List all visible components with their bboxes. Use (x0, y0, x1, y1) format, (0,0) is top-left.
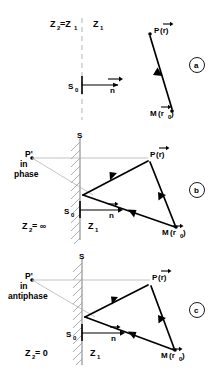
impedance-right-letter-b: Z (88, 221, 94, 231)
normal-label-a: n (110, 86, 115, 95)
impedance-right-sub-b: 1 (95, 227, 99, 233)
point-M-close-c: ) (182, 351, 185, 360)
ray-wall-to-M-b (83, 195, 175, 227)
point-P-arg-b: (r) (156, 150, 165, 159)
image-diagonal-line-b (32, 158, 93, 195)
panel-b: S P' in phase P (r) M (r 0 ) (0, 122, 212, 246)
point-M-arg-a: (r (158, 109, 164, 118)
surface-label-c: S (79, 252, 85, 261)
point-M-close-a: ) (171, 109, 174, 118)
ray-P-to-M-direct-b (150, 162, 175, 225)
impedance-left-eq-a: =Z (60, 19, 71, 29)
point-M-arg-b: (r (170, 228, 176, 237)
impedance-right-sub-c: 1 (97, 354, 101, 360)
point-M-label-c: M (161, 351, 168, 360)
r-vector-hat-tip-a (170, 22, 174, 26)
surface-label-b: S (77, 131, 83, 140)
panel-c: S P' in antiphase P (r) M (r 0 (0, 245, 212, 370)
phase-text-line2-c: antiphase (8, 291, 48, 301)
point-M-label-b: M (162, 228, 169, 237)
impedance-left-letter-c: Z (25, 348, 31, 358)
point-M-close-b: ) (183, 228, 186, 237)
point-P-arg-a: (r) (160, 26, 169, 35)
panel-tag-b: b (194, 186, 199, 195)
panel-b-svg: S P' in phase P (r) M (r 0 ) (0, 122, 212, 246)
panel-tag-a: a (194, 61, 199, 70)
source-label-b: S (64, 207, 70, 216)
impedance-left-eq-b: = ∞ (32, 221, 47, 231)
source-label-a: S (68, 82, 74, 91)
impedance-left-letter-a: Z (50, 19, 56, 29)
impedance-left-letter-b: Z (22, 221, 28, 231)
ray-M-to-P-a (150, 36, 172, 109)
point-P-dot-a (148, 32, 152, 36)
ray-arrow-wall-M-b (128, 210, 137, 218)
normal-vector-hat-tip-a (119, 77, 123, 82)
point-P-arg-c: (r) (158, 273, 167, 282)
r-vector-hat-tip-b (166, 146, 170, 150)
wall-hatching-c (73, 263, 82, 365)
ray-P-to-wall-b (83, 161, 148, 195)
source-label-c: S (66, 330, 72, 339)
phase-text-line1-c: in (20, 281, 28, 291)
r-vector-hat-tip-c (168, 269, 172, 273)
impedance-left-eq-sub-a: 1 (74, 25, 78, 31)
impedance-left-eq-c: = 0 (35, 348, 48, 358)
source-sub-b: 0 (71, 212, 75, 218)
point-M-arg-c: (r (169, 351, 175, 360)
phase-text-line1-b: in (20, 159, 28, 169)
phase-text-line2-b: phase (14, 169, 39, 179)
ray-arrow-wall-M-c (128, 332, 137, 340)
impedance-right-letter-a: Z (93, 19, 99, 29)
source-sub-a: 0 (75, 87, 79, 93)
image-point-label-c: P' (25, 271, 33, 281)
impedance-right-sub-a: 1 (100, 25, 104, 31)
impedance-right-letter-c: Z (90, 348, 96, 358)
point-M-label-a: M (150, 109, 157, 118)
normal-vector-hat-tip-c (117, 325, 121, 329)
normal-label-b: n (109, 211, 114, 220)
panel-tag-c: c (194, 306, 199, 315)
wall-hatching-b (71, 142, 80, 244)
panel-a: Z 2 =Z 1 Z 1 S 0 n P (r) (0, 0, 212, 125)
panel-a-svg: Z 2 =Z 1 Z 1 S 0 n P (r) (0, 0, 212, 125)
figure-canvas: Z 2 =Z 1 Z 1 S 0 n P (r) (0, 0, 212, 370)
panel-c-svg: S P' in antiphase P (r) M (r 0 (0, 245, 212, 370)
normal-label-c: n (111, 334, 116, 343)
ray-P-to-wall-c (85, 285, 148, 317)
normal-vector-hat-tip-b (115, 202, 119, 206)
image-point-label-b: P' (25, 149, 33, 159)
